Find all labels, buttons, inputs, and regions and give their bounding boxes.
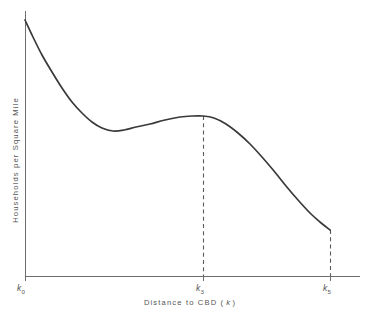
x-axis-title-close: ) [232, 298, 236, 307]
y-axis-title: Households per Square Mile [11, 97, 20, 223]
chart-background [0, 0, 383, 314]
tick-label-k5-sub: 5 [327, 288, 331, 295]
tick-label-k0-sub: 0 [21, 288, 25, 295]
density-gradient-chart: k0 k3 k5 Distance to CBD (k) Households … [0, 0, 383, 314]
chart-figure: k0 k3 k5 Distance to CBD (k) Households … [0, 0, 383, 314]
x-axis-title: Distance to CBD (k) [144, 298, 236, 307]
tick-label-k3-sub: 3 [200, 288, 204, 295]
x-axis-title-main: Distance to CBD ( [144, 298, 224, 307]
